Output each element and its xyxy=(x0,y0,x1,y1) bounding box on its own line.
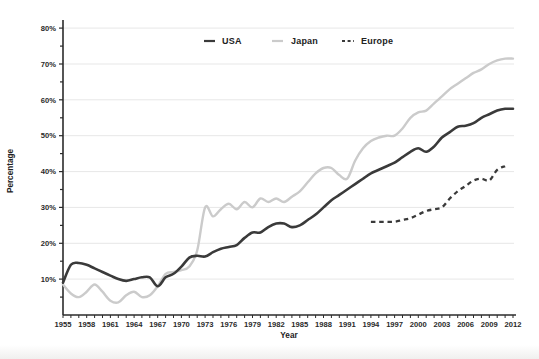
y-tick-label: 30% xyxy=(41,203,56,212)
y-axis-tick-labels: 10%20%30%40%50%60%70%80% xyxy=(41,24,56,284)
x-axis-tick-labels: 1955195819611964196719701973197619791982… xyxy=(55,320,522,329)
legend-label-europe: Europe xyxy=(361,36,393,46)
legend-label-japan: Japan xyxy=(291,36,318,46)
y-axis-title: Percentage xyxy=(6,148,15,193)
line-chart-svg: 10%20%30%40%50%60%70%80% 195519581961196… xyxy=(0,0,539,359)
x-tick-label: 2012 xyxy=(505,320,522,329)
x-tick-label: 1967 xyxy=(149,320,166,329)
x-tick-label: 1988 xyxy=(315,320,332,329)
x-tick-label: 1991 xyxy=(339,320,357,329)
japan-line xyxy=(63,58,513,302)
y-tick-label: 80% xyxy=(41,24,56,33)
x-tick-label: 1997 xyxy=(386,320,403,329)
y-tick-label: 50% xyxy=(41,131,56,140)
y-tick-label: 10% xyxy=(41,275,56,284)
legend-item-europe: Europe xyxy=(342,36,393,46)
x-tick-label: 1970 xyxy=(173,320,190,329)
series-lines xyxy=(63,58,513,302)
legend-item-japan: Japan xyxy=(272,36,318,46)
x-tick-label: 1994 xyxy=(362,320,380,329)
x-tick-label: 1961 xyxy=(102,320,120,329)
x-tick-label: 2000 xyxy=(410,320,427,329)
europe-line xyxy=(371,166,505,222)
x-tick-label: 1982 xyxy=(268,320,285,329)
x-tick-label: 2009 xyxy=(481,320,498,329)
x-tick-label: 1976 xyxy=(220,320,237,329)
axes xyxy=(59,20,516,318)
y-tick-label: 40% xyxy=(41,167,56,176)
legend-item-usa: USA xyxy=(204,36,242,46)
x-tick-label: 1964 xyxy=(126,320,144,329)
gridlines xyxy=(63,28,514,279)
legend-label-usa: USA xyxy=(222,36,242,46)
percentage-by-year-line-chart: 10%20%30%40%50%60%70%80% 195519581961196… xyxy=(0,0,539,359)
x-tick-label: 1985 xyxy=(291,320,309,329)
x-tick-label: 1979 xyxy=(244,320,261,329)
y-tick-label: 60% xyxy=(41,96,56,105)
legend: USA Japan Europe xyxy=(204,36,393,46)
x-tick-label: 2006 xyxy=(457,320,474,329)
x-axis-title: Year xyxy=(280,331,298,340)
x-tick-label: 1958 xyxy=(78,320,95,329)
x-tick-label: 1955 xyxy=(55,320,73,329)
y-tick-label: 70% xyxy=(41,60,56,69)
x-tick-label: 1973 xyxy=(197,320,214,329)
y-tick-label: 20% xyxy=(41,239,56,248)
x-tick-label: 2003 xyxy=(433,320,450,329)
